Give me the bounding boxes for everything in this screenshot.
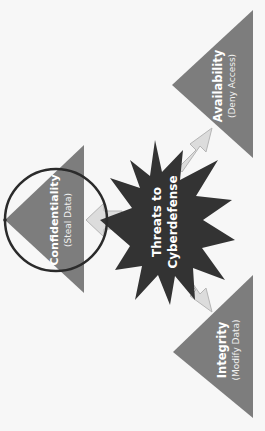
cia-threat-diagram: Availability (Deny Access) Confidentiali… (0, 0, 265, 431)
integrity-triangle (173, 275, 253, 418)
availability-subtitle: (Deny Access) (227, 54, 237, 118)
availability-title: Availability (211, 49, 225, 122)
circle-handle (3, 218, 7, 222)
integrity-title: Integrity (215, 321, 229, 378)
confidentiality-title: Confidentiality (48, 174, 61, 265)
center-label-line2: Cyberdefense (166, 175, 180, 268)
confidentiality-subtitle: (Steal Data) (63, 193, 73, 247)
arrow-to-availability (178, 128, 212, 172)
integrity-subtitle: (Modify Data) (231, 319, 241, 380)
center-label-line1: Threats to (150, 187, 164, 257)
